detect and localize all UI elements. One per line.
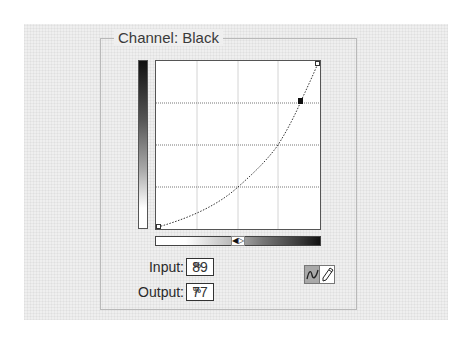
curve-icon [306, 268, 319, 281]
pencil-icon [321, 267, 334, 282]
swap-arrows-icon[interactable]: ◀▷ [231, 236, 245, 246]
curve-point-start [157, 225, 161, 229]
percent-icon: % [193, 285, 201, 295]
input-label: Input: [116, 259, 184, 275]
curve-canvas[interactable] [156, 61, 320, 229]
curve-tool-toggle [304, 265, 335, 284]
output-label: Output: [104, 284, 184, 300]
curve-graph[interactable] [155, 60, 321, 230]
output-gradient-bar [138, 60, 148, 229]
curve-point-selected [298, 98, 303, 104]
channel-label: Channel: Black [114, 29, 223, 46]
percent-icon: % [193, 260, 201, 270]
curve-tool-button[interactable] [305, 266, 319, 283]
pencil-tool-button[interactable] [319, 266, 334, 283]
curve-point-end [316, 62, 320, 66]
